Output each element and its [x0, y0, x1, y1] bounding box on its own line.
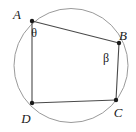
- angle-label-theta: θ: [31, 26, 37, 40]
- chord-BC: [116, 43, 119, 100]
- geometry-figure: A B C D θ β: [0, 0, 136, 132]
- vertex-dot-D: [30, 101, 34, 105]
- chord-AB: [32, 21, 119, 43]
- vertex-label-a: A: [12, 7, 21, 22]
- vertex-label-d: D: [20, 111, 31, 126]
- vertex-dot-A: [30, 19, 34, 23]
- geometry-canvas: A B C D θ β: [0, 0, 136, 132]
- vertex-label-c: C: [114, 105, 123, 120]
- vertex-label-b: B: [119, 28, 127, 43]
- vertex-dot-C: [114, 98, 118, 102]
- angle-label-beta: β: [103, 51, 109, 65]
- chord-CD: [32, 100, 116, 103]
